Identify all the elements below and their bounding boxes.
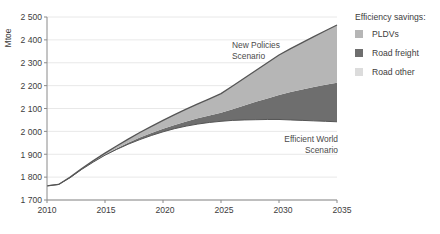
legend-item-label: PLDVs <box>372 29 399 39</box>
legend-swatch-icon <box>355 68 363 76</box>
annotation-efficient-world: Efficient World Scenario <box>262 134 338 155</box>
legend-title: Efficiency savings: <box>355 12 440 22</box>
legend-swatch-icon <box>355 49 363 57</box>
chart-figure: Mtoe 2 500 2 400 2 300 2 200 2 100 2 000… <box>0 0 440 234</box>
legend-item-pldvs: PLDVs <box>355 29 440 39</box>
annotation-new-policies: New Policies Scenario <box>232 40 280 61</box>
legend: Efficiency savings: PLDVs Road freight R… <box>355 12 440 86</box>
legend-swatch-icon <box>355 30 363 38</box>
legend-item-label: Road other <box>372 67 415 77</box>
legend-item-road-other: Road other <box>355 67 440 77</box>
legend-item-road-freight: Road freight <box>355 48 440 58</box>
legend-item-label: Road freight <box>372 48 419 58</box>
